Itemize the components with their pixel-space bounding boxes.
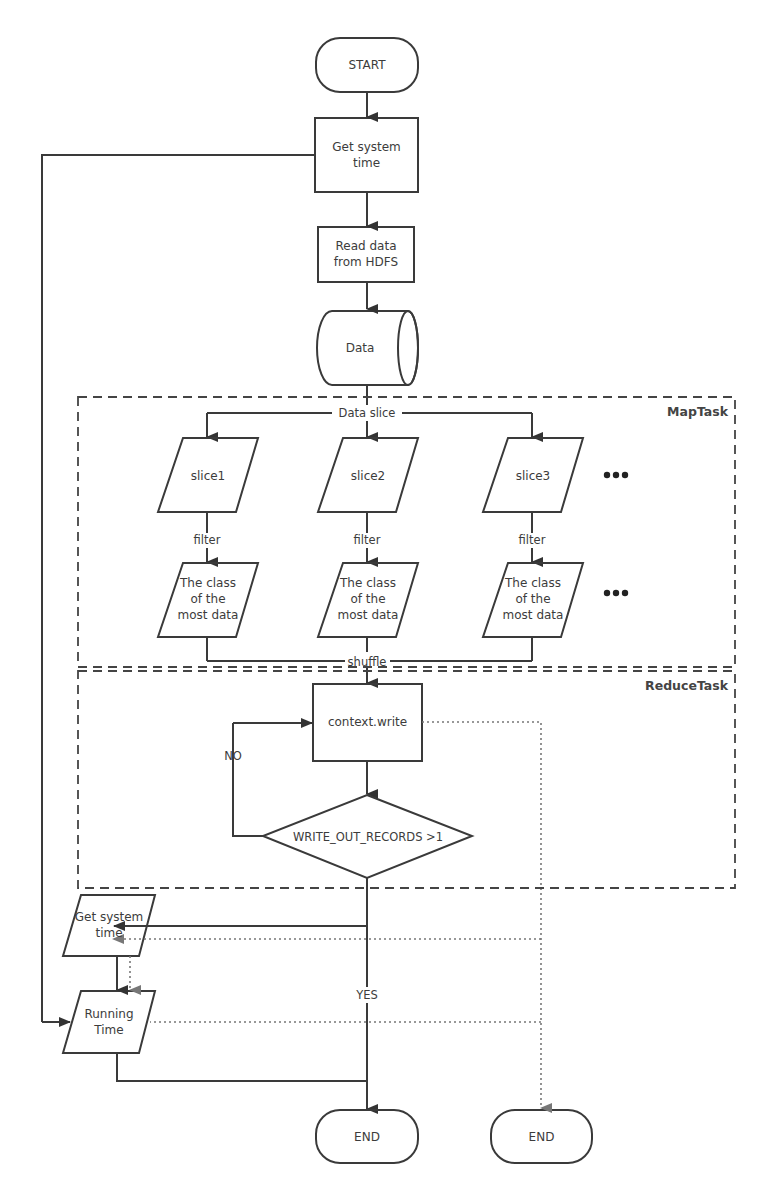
slice2-label: slice2 xyxy=(328,468,408,484)
slice3-label: slice3 xyxy=(493,468,573,484)
class2-line2: of the xyxy=(323,591,413,607)
class2-line1: The class xyxy=(323,575,413,591)
running-time-line2: Time xyxy=(68,1022,150,1038)
shuffle-label: shuffle xyxy=(342,654,392,670)
class1-label: The class of the most data xyxy=(163,575,253,623)
get-system-time-label: Get system time xyxy=(315,139,418,171)
get-system-time-2-label: Get system time xyxy=(68,909,150,941)
no-label: NO xyxy=(218,748,248,764)
data-slice-label: Data slice xyxy=(332,405,402,421)
data-label: Data xyxy=(320,340,400,356)
get-system-time-2-line2: time xyxy=(68,925,150,941)
reducetask-label: ReduceTask xyxy=(628,678,728,694)
slice1-label: slice1 xyxy=(168,468,248,484)
context-write-label: context.write xyxy=(313,714,422,730)
end2-label: END xyxy=(491,1129,592,1145)
start-label: START xyxy=(316,57,418,73)
get-system-time-line2: time xyxy=(315,155,418,171)
class1-line2: of the xyxy=(163,591,253,607)
class1-line1: The class xyxy=(163,575,253,591)
end1-label: END xyxy=(316,1129,418,1145)
class1-line3: most data xyxy=(163,607,253,623)
running-time-label: Running Time xyxy=(68,1006,150,1038)
class3-line2: of the xyxy=(488,591,578,607)
class3-line3: most data xyxy=(488,607,578,623)
class2-label: The class of the most data xyxy=(323,575,413,623)
class3-line1: The class xyxy=(488,575,578,591)
decision-label: WRITE_OUT_RECORDS >1 xyxy=(277,829,459,845)
filter3-label: filter xyxy=(507,532,557,548)
read-data-line1: Read data xyxy=(318,238,414,254)
get-system-time-2-line1: Get system xyxy=(68,909,150,925)
get-system-time-line1: Get system xyxy=(315,139,418,155)
maptask-label: MapTask xyxy=(640,404,728,420)
reducetask-group xyxy=(78,671,735,888)
read-data-label: Read data from HDFS xyxy=(318,238,414,270)
filter2-label: filter xyxy=(342,532,392,548)
read-data-line2: from HDFS xyxy=(318,254,414,270)
yes-label: YES xyxy=(347,987,387,1003)
class3-label: The class of the most data xyxy=(488,575,578,623)
filter1-label: filter xyxy=(182,532,232,548)
class2-line3: most data xyxy=(323,607,413,623)
running-time-line1: Running xyxy=(68,1006,150,1022)
